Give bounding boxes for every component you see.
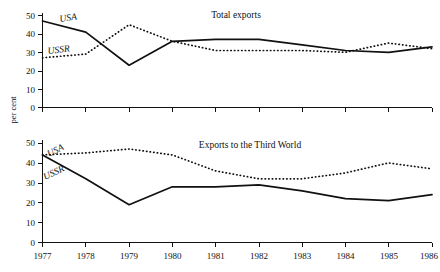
bottom-panel-series-ussr [43, 155, 433, 205]
bottom-panel-x-ticks [43, 243, 433, 248]
x-tick-label: 1983 [293, 251, 312, 261]
y-tick-label: 30 [26, 178, 36, 188]
x-tick-label: 1982 [250, 251, 268, 261]
y-tick-label: 50 [26, 138, 36, 148]
top-panel-series-ussr [43, 25, 433, 58]
y-tick-label: 40 [26, 158, 36, 168]
top-panel-label-usa: USA [59, 11, 78, 24]
x-tick-label: 1977 [34, 251, 53, 261]
x-tick-label: 1979 [120, 251, 139, 261]
bottom-panel-label-ussr: USSR [42, 163, 66, 182]
panel-exports-third-world: 50 40 30 20 10 0 1 [26, 138, 439, 261]
chart-figure: 50 40 30 20 10 0 Total expo [0, 0, 440, 272]
top-panel-y-ticks [38, 16, 43, 108]
y-tick-label: 0 [31, 103, 36, 113]
y-tick-label: 20 [26, 66, 36, 76]
x-tick-label: 1981 [207, 251, 225, 261]
bottom-panel-label-usa: USA [45, 142, 65, 159]
y-tick-label: 50 [26, 11, 36, 21]
x-axis-tick-labels: 1977 1978 1979 1980 1981 1982 1983 1984 … [34, 251, 439, 261]
top-panel-x-ticks [43, 108, 433, 113]
chart-canvas: 50 40 30 20 10 0 Total expo [0, 0, 440, 272]
top-panel-axes [43, 13, 433, 108]
x-tick-label: 1985 [380, 251, 399, 261]
y-tick-label: 20 [26, 198, 36, 208]
bottom-panel-y-tick-labels: 50 40 30 20 10 0 [26, 138, 36, 248]
x-tick-label: 1986 [420, 251, 439, 261]
x-tick-label: 1978 [77, 251, 96, 261]
bottom-panel-axes [43, 140, 433, 243]
y-axis-title: per cent [8, 96, 18, 124]
top-panel-y-tick-labels: 50 40 30 20 10 0 [26, 11, 36, 113]
panel-total-exports: 50 40 30 20 10 0 Total expo [26, 10, 432, 113]
bottom-panel-title: Exports to the Third World [199, 140, 302, 150]
y-tick-label: 10 [26, 218, 36, 228]
top-panel-title: Total exports [211, 10, 261, 20]
bottom-panel-series-usa [43, 149, 433, 179]
bottom-panel-y-ticks [38, 143, 43, 243]
top-panel-label-ussr: USSR [47, 43, 70, 56]
y-tick-label: 10 [26, 85, 36, 95]
y-tick-label: 0 [31, 238, 36, 248]
y-tick-label: 40 [26, 29, 36, 39]
x-tick-label: 1984 [337, 251, 356, 261]
x-tick-label: 1980 [163, 251, 182, 261]
y-tick-label: 30 [26, 48, 36, 58]
